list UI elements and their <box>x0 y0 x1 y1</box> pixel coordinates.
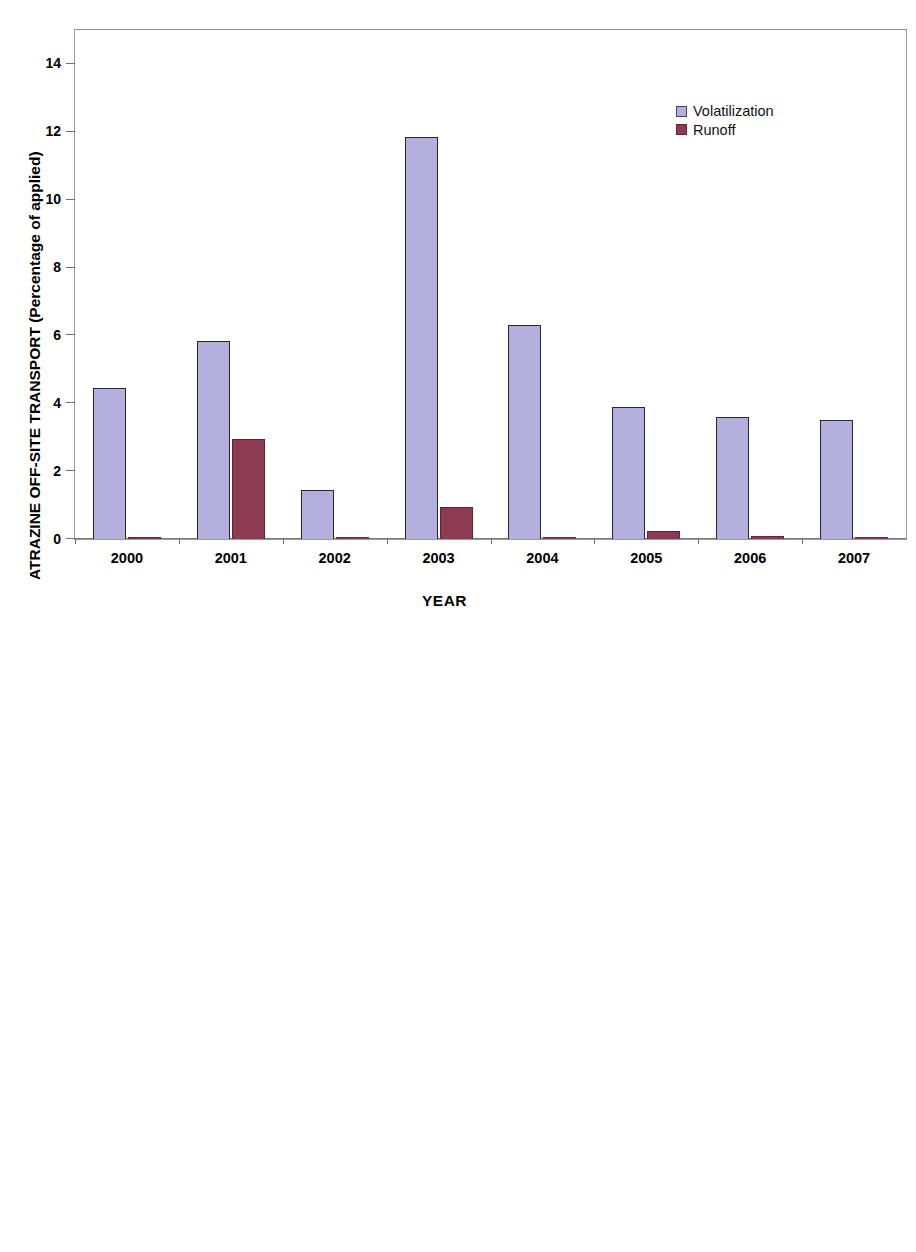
bar-volatilization <box>405 137 438 539</box>
x-axis-tick <box>698 539 699 544</box>
x-axis-category-label: 2007 <box>838 551 870 566</box>
legend-swatch-runoff-icon <box>676 124 687 135</box>
y-axis-tick: 2 <box>66 470 75 471</box>
x-axis-title-atrazine: YEAR <box>422 592 467 610</box>
y-axis-tick-label: 14 <box>45 56 61 70</box>
bar-runoff <box>128 537 161 539</box>
legend-atrazine: Volatilization Runoff <box>676 104 774 137</box>
x-axis-category-label: 2000 <box>111 551 143 566</box>
y-axis-tick: 10 <box>66 199 75 200</box>
y-axis-tick-label: 12 <box>45 124 61 138</box>
bar-volatilization <box>820 420 853 539</box>
bar-runoff <box>647 531 680 539</box>
x-axis-category-label: 2003 <box>422 551 454 566</box>
chart-atrazine: ATRAZINE OFF-SITE TRANSPORT (Percentage … <box>0 0 916 620</box>
x-axis-tick <box>283 539 284 544</box>
y-axis-tick: 0 <box>66 538 75 539</box>
y-axis-tick-label: 4 <box>53 396 61 410</box>
x-axis-category-label: 2001 <box>215 551 247 566</box>
x-axis-category-label: 2002 <box>319 551 351 566</box>
bar-volatilization <box>93 388 126 539</box>
y-axis-tick-label: 2 <box>53 464 61 478</box>
bar-runoff <box>855 537 888 539</box>
bar-runoff <box>336 537 369 539</box>
x-axis-tick <box>387 539 388 544</box>
legend-label-runoff: Runoff <box>693 123 735 138</box>
y-axis-tick: 12 <box>66 131 75 132</box>
y-axis-tick-label: 6 <box>53 328 61 342</box>
y-axis-tick: 14 <box>66 63 75 64</box>
y-axis-tick: 6 <box>66 334 75 335</box>
bar-volatilization <box>612 407 645 539</box>
x-axis-tick <box>491 539 492 544</box>
legend-item-volatilization: Volatilization <box>676 104 774 119</box>
x-axis-title-text: YEAR <box>422 592 467 609</box>
bar-volatilization <box>716 417 749 539</box>
bar-runoff <box>232 439 265 539</box>
bar-volatilization <box>508 325 541 539</box>
legend-label-volatilization: Volatilization <box>693 104 774 119</box>
x-axis-tick <box>75 539 76 544</box>
x-axis-category-label: 2004 <box>526 551 558 566</box>
bar-runoff <box>751 536 784 539</box>
bar-runoff <box>543 537 576 539</box>
y-axis-tick-label: 8 <box>53 260 61 274</box>
y-axis-title-atrazine: ATRAZINE OFF-SITE TRANSPORT (Percentage … <box>26 151 44 580</box>
x-axis-tick <box>179 539 180 544</box>
legend-swatch-volatilization-icon <box>676 106 687 117</box>
x-axis-tick <box>802 539 803 544</box>
plot-area-atrazine: 0246810121420002001200220032004200520062… <box>74 29 907 540</box>
chart-metolachlor: METOLACHLOR OF-SITE TRANSPORT (percentag… <box>0 620 916 1252</box>
y-axis-tick: 8 <box>66 267 75 268</box>
legend-item-runoff: Runoff <box>676 123 774 138</box>
y-axis-tick: 4 <box>66 402 75 403</box>
bar-volatilization <box>197 341 230 540</box>
bar-volatilization <box>301 490 334 539</box>
bar-runoff <box>440 507 473 539</box>
x-axis-category-label: 2005 <box>630 551 662 566</box>
y-axis-tick-label: 0 <box>53 532 61 546</box>
x-axis-category-label: 2006 <box>734 551 766 566</box>
x-axis-tick <box>594 539 595 544</box>
y-axis-tick-label: 10 <box>45 192 61 206</box>
